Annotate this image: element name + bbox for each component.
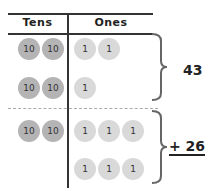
ten-coin: 10: [42, 77, 64, 99]
brace-icon: [150, 33, 170, 101]
ten-coin: 10: [42, 38, 64, 60]
brace-icon: [150, 110, 170, 184]
one-coin: 1: [74, 38, 96, 60]
header-rule: [8, 33, 153, 35]
one-coin: 1: [98, 158, 120, 180]
ten-coin: 10: [18, 120, 40, 142]
ten-coin: 10: [18, 38, 40, 60]
one-coin: 1: [98, 120, 120, 142]
column-divider: [67, 13, 69, 188]
one-coin: 1: [122, 120, 144, 142]
one-coin: 1: [122, 158, 144, 180]
ten-coin: 10: [18, 77, 40, 99]
one-coin: 1: [74, 120, 96, 142]
ones-header: Ones: [69, 16, 153, 29]
one-coin: 1: [74, 158, 96, 180]
addend-26: + 26: [169, 138, 205, 156]
ten-coin: 10: [42, 120, 64, 142]
one-coin: 1: [74, 77, 96, 99]
tens-header: Tens: [8, 16, 67, 29]
group-divider: [8, 108, 158, 109]
addend-43: 43: [183, 62, 202, 78]
one-coin: 1: [98, 38, 120, 60]
top-rule: [8, 13, 153, 15]
